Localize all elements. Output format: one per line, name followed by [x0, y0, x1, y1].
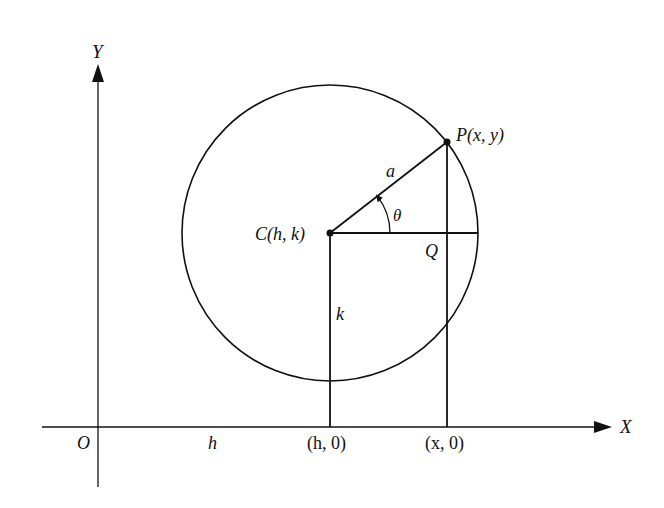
- x-axis-label: X: [619, 416, 633, 437]
- x-tick-label: (x, 0): [425, 433, 464, 454]
- angle-label: θ: [393, 206, 401, 225]
- radius-label: a: [386, 161, 395, 181]
- point-p: [444, 139, 451, 146]
- point-label: P(x, y): [455, 125, 504, 146]
- x-axis-arrow-icon: [594, 421, 612, 433]
- circle-diagram: Y X O C(h, k) P(x, y) a θ Q k h (h, 0) (…: [0, 0, 664, 508]
- center-point: [327, 230, 334, 237]
- k-label: k: [336, 304, 345, 324]
- y-axis-label: Y: [92, 41, 105, 62]
- angle-arc: [377, 196, 390, 233]
- y-axis-arrow-icon: [92, 64, 104, 82]
- foot-label: Q: [425, 241, 438, 261]
- h-tick-label: (h, 0): [307, 433, 346, 454]
- center-label: C(h, k): [255, 224, 305, 245]
- h-label: h: [208, 433, 217, 453]
- origin-label: O: [77, 433, 90, 453]
